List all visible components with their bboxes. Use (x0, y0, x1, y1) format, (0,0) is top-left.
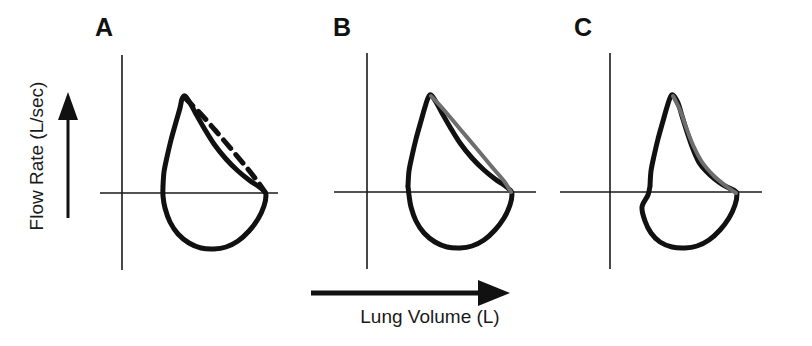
flow-volume-loop-figure: A B C Flow Rate (L/sec) Lung Volume (L) (0, 0, 812, 346)
global-x-axis-arrow (311, 280, 510, 306)
global-y-axis-arrow (58, 92, 78, 218)
panel-a-overlay-dashed-limb (185, 98, 265, 192)
panel-c-measured-loop (642, 95, 737, 248)
figure-canvas (0, 0, 812, 346)
curves-group (163, 95, 737, 249)
panel-b-overlay-gray-limb (431, 96, 511, 192)
